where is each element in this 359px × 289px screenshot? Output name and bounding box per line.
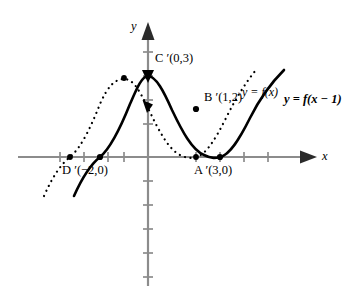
graph-svg (0, 0, 359, 289)
marker-point-D (97, 154, 103, 160)
marker-original-minimum (193, 154, 199, 160)
curve-original-fx (44, 70, 256, 196)
x-axis-label: x (322, 150, 328, 163)
marker-original-maximum (121, 75, 127, 81)
marker-point-B (193, 106, 199, 112)
curve-original-path (44, 70, 256, 196)
x-axis-arrowhead (300, 151, 317, 164)
figure-canvas: y x C ′(0,3) B ′(1,2) D ′(−2,0) A ′(3,0)… (0, 0, 359, 289)
function-label-translated: y = f(x − 1) (284, 93, 342, 106)
marker-point-A (217, 154, 223, 160)
point-label-A: A ′(3,0) (194, 164, 232, 177)
y-axis-arrowhead (142, 22, 155, 40)
function-label-original: y = f(x) (242, 86, 278, 98)
y-axis-label: y (131, 20, 137, 33)
point-label-B: B ′(1,2) (204, 91, 242, 104)
point-label-C: C ′(0,3) (155, 52, 193, 65)
marker-original-x-intercept-left (67, 154, 73, 160)
point-label-D: D ′(−2,0) (62, 164, 108, 177)
